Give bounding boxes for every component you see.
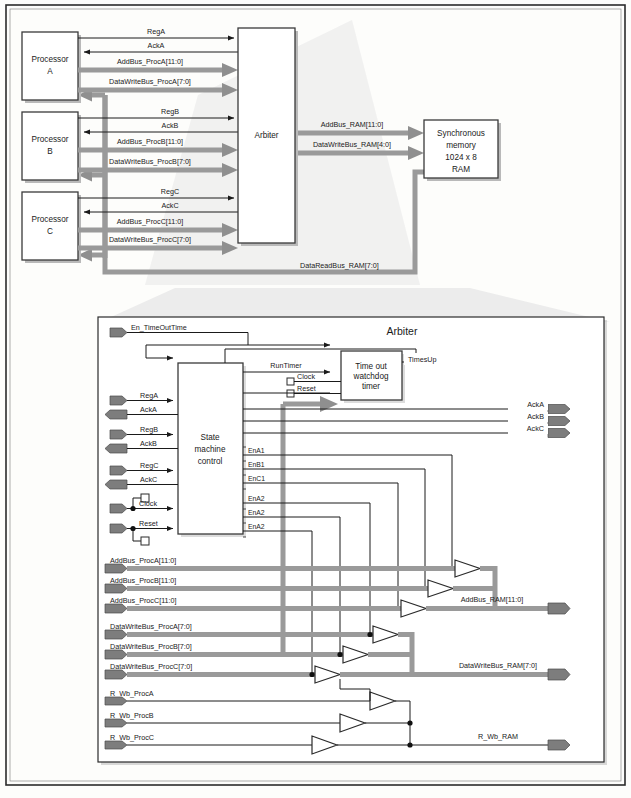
ack-c-label: AckC xyxy=(161,201,178,210)
reset-in-label: Reset xyxy=(139,519,158,528)
clock-in-label: Clock xyxy=(139,499,157,508)
req-a-label: RegA xyxy=(147,27,165,36)
processor-c-label-line1: Processor xyxy=(32,215,69,224)
pin-rwb-procb[interactable] xyxy=(105,719,127,727)
proc-a-signals: RegA AckA AddBus_ProcA[11:0] DataWriteBu… xyxy=(78,27,238,97)
ena2-3-label: EnA2 xyxy=(248,523,265,530)
state-machine-block: State machine control xyxy=(178,363,246,537)
pin-ack-c-out[interactable] xyxy=(548,429,570,438)
processor-c-label-line2: C xyxy=(47,227,53,236)
datawritebus-proca-label: DataWriteBus_ProcA[7:0] xyxy=(110,622,192,631)
processor-a-label-line1: Processor xyxy=(32,55,69,64)
pin-addbus-ram-out[interactable] xyxy=(548,603,570,614)
pin-datawritebus-ram-out[interactable] xyxy=(548,669,570,680)
clock-terminal-timer[interactable] xyxy=(287,378,294,385)
processor-b-label-line1: Processor xyxy=(32,135,69,144)
processor-a-block: Processor A xyxy=(22,32,81,103)
addbus-ram-out-label: AddBus_RAM[11:0] xyxy=(461,595,524,604)
timer-line2: watchdog xyxy=(352,372,388,381)
timer-line1: Time out xyxy=(355,362,387,371)
ack-b-label: AckB xyxy=(162,121,179,130)
addbus-ram-label: AddBus_RAM[11:0] xyxy=(321,120,384,129)
pin-ack-c[interactable] xyxy=(105,480,127,489)
top-system-panel: DataReadBus_RAM[7:0] Processor A Process… xyxy=(22,27,501,272)
dwb-c-junction xyxy=(309,672,314,677)
datawritebus-b-label: DataWriteBus_ProcB[7:0] xyxy=(109,157,191,166)
pin-addbus-proca[interactable] xyxy=(105,564,127,573)
pin-ack-a[interactable] xyxy=(105,410,127,419)
pin-addbus-procc[interactable] xyxy=(105,604,127,613)
pin-datawritebus-proca[interactable] xyxy=(105,630,127,639)
processor-c-block: Processor C xyxy=(22,192,81,263)
pin-addbus-procb[interactable] xyxy=(105,584,127,593)
processor-a-label-line2: A xyxy=(47,67,53,76)
timer-line3: timer xyxy=(362,382,380,391)
req-a-in-label: RegA xyxy=(140,391,158,400)
en-timeouttime-label: En_TimeOutTime xyxy=(131,323,187,332)
arbiter-block-top: Arbiter xyxy=(238,28,298,246)
pin-rwb-proca[interactable] xyxy=(105,697,127,705)
dwb-b-junction xyxy=(337,652,342,657)
ack-a-out-label: AckA xyxy=(527,400,544,409)
pin-rwb-ram-out[interactable] xyxy=(548,740,570,750)
pin-ack-a-out[interactable] xyxy=(548,405,570,414)
enc1-label: EnC1 xyxy=(248,475,265,482)
ena2-2-label: EnA2 xyxy=(248,509,265,516)
ack-a-in-label: AckA xyxy=(140,405,157,414)
timesup-label: TimesUp xyxy=(408,355,437,364)
arbiter-detail-panel: Arbiter En_TimeOutTime State machine con… xyxy=(98,317,607,765)
rwb-junction-lower xyxy=(407,742,412,747)
addbus-c-label: AddBus_ProcC[11:0] xyxy=(117,217,184,226)
enb1-label: EnB1 xyxy=(248,461,265,468)
processor-b-block: Processor B xyxy=(22,112,81,183)
dwb-a-junction xyxy=(367,632,372,637)
datawritebus-ram-arrow xyxy=(408,146,424,160)
state-machine-line2: machine xyxy=(195,445,226,454)
ack-b-in-label: AckB xyxy=(140,439,157,448)
pin-ack-b[interactable] xyxy=(105,444,127,453)
req-c-in-label: RegC xyxy=(140,461,158,470)
memory-block: Synchronous memory 1024 x 8 RAM xyxy=(424,120,501,181)
addbus-a-label: AddBus_ProcA[11:0] xyxy=(117,57,183,66)
memory-label-line3: 1024 x 8 xyxy=(445,153,477,162)
reset-branch-terminal[interactable] xyxy=(141,537,149,545)
rwb-junction-upper xyxy=(407,720,412,725)
memory-label-line1: Synchronous xyxy=(437,129,485,138)
ack-b-out-label: AckB xyxy=(527,412,544,421)
datawritebus-ram-out-label: DataWriteBus_RAM[7:0] xyxy=(459,661,537,670)
datawritebus-procb-label: DataWriteBus_ProcB[7:0] xyxy=(110,642,192,651)
state-machine-line3: control xyxy=(198,457,223,466)
ack-c-out-label: AckC xyxy=(527,424,544,433)
ack-c-in-label: AckC xyxy=(140,475,157,484)
pin-datawritebus-procc[interactable] xyxy=(105,670,127,679)
datawritebus-a-label: DataWriteBus_ProcA[7:0] xyxy=(109,77,191,86)
figure-root: DataReadBus_RAM[7:0] Processor A Process… xyxy=(0,0,631,798)
req-b-label: RegB xyxy=(161,107,179,116)
watchdog-timer-block: Time out watchdog timer xyxy=(341,351,405,403)
ena1-label: EnA1 xyxy=(248,447,265,454)
datawritebus-ram-label: DataWriteBus_RAM[4:0] xyxy=(313,140,391,149)
state-machine-line1: State xyxy=(200,433,220,442)
req-b-in-label: RegB xyxy=(140,425,158,434)
req-c-label: RegC xyxy=(161,187,179,196)
rwb-ram-out-label: R_Wb_RAM xyxy=(478,732,518,741)
memory-label-line2: memory xyxy=(446,141,476,150)
timer-clock-label: Clock xyxy=(297,372,315,381)
addbus-ram-arrow xyxy=(408,126,424,140)
addbus-b-label: AddBus_ProcB[11:0] xyxy=(117,137,183,146)
arbiter-panel-title: Arbiter xyxy=(387,325,418,337)
processor-b-label-line2: B xyxy=(47,147,53,156)
block-diagram-svg: DataReadBus_RAM[7:0] Processor A Process… xyxy=(0,0,631,798)
arbiter-top-label: Arbiter xyxy=(254,131,278,140)
clock-junction-dot xyxy=(130,506,135,511)
datawritebus-procc-label: DataWriteBus_ProcC[7:0] xyxy=(110,662,192,671)
dataread-bus-label: DataReadBus_RAM[7:0] xyxy=(300,261,379,270)
ena2-1-label: EnA2 xyxy=(248,495,265,502)
ack-a-label: AckA xyxy=(148,41,165,50)
addbus-a-arrow xyxy=(222,63,238,77)
pin-datawritebus-procb[interactable] xyxy=(105,650,127,659)
pin-ack-b-out[interactable] xyxy=(548,417,570,426)
pin-rwb-procc[interactable] xyxy=(105,741,127,749)
memory-label-line4: RAM xyxy=(452,165,470,174)
timer-reset-label: Reset xyxy=(297,384,316,393)
